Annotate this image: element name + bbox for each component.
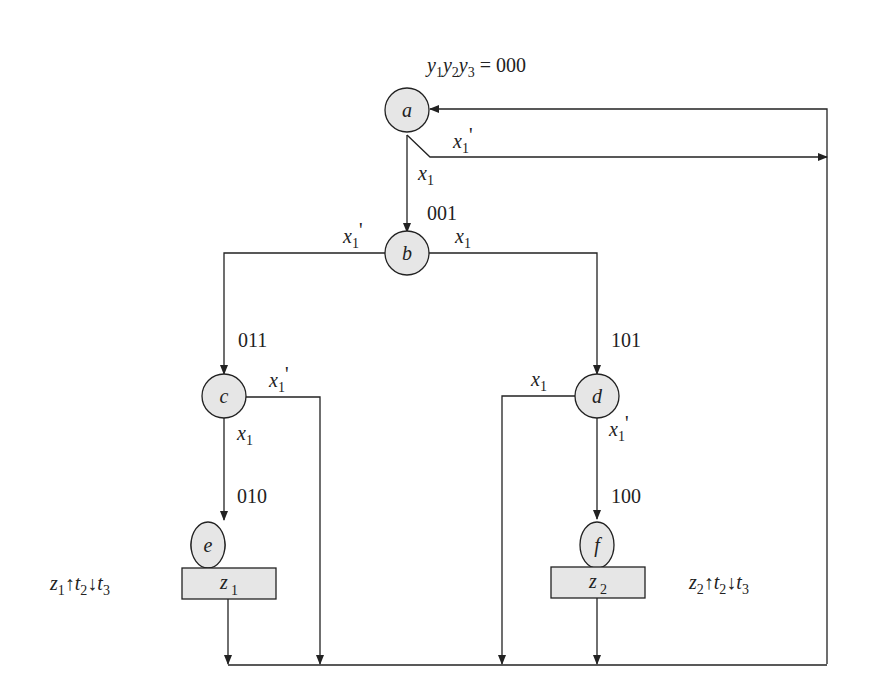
svg-text:x1: x1 xyxy=(454,225,471,251)
state-assignment-header: y1y2y3 = 000 xyxy=(425,54,526,80)
svg-text:x1': x1' xyxy=(452,124,473,156)
svg-text:z: z xyxy=(219,571,228,593)
code-b: 001 xyxy=(427,202,457,224)
code-d: 101 xyxy=(611,329,641,351)
annotation-z1: z1↑t2↓t3 xyxy=(49,572,110,598)
svg-text:d: d xyxy=(592,385,603,407)
svg-text:x1: x1 xyxy=(530,368,547,394)
code-e: 010 xyxy=(237,485,267,507)
svg-text:x1: x1 xyxy=(236,422,253,448)
svg-text:x1: x1 xyxy=(417,162,434,188)
code-c: 011 xyxy=(238,329,267,351)
svg-text:c: c xyxy=(220,385,229,407)
state-diagram: y1y2y3 = 000 a b c xyxy=(0,0,874,699)
svg-text:x1': x1' xyxy=(268,363,289,395)
condition-labels: x1' x1 x1' x1 x1' x1 x1 x1' xyxy=(236,124,629,448)
svg-text:x1': x1' xyxy=(342,219,363,251)
output-box-z2: z 2 xyxy=(551,567,645,598)
state-a: a xyxy=(385,88,429,132)
svg-text:a: a xyxy=(402,99,412,121)
svg-text:z: z xyxy=(588,570,597,592)
svg-text:e: e xyxy=(204,534,213,556)
state-b: b xyxy=(385,231,429,275)
svg-text:b: b xyxy=(402,242,412,264)
state-f: f xyxy=(580,522,614,568)
state-d: d xyxy=(575,374,619,418)
svg-text:2: 2 xyxy=(600,582,607,597)
state-c: c xyxy=(202,374,246,418)
svg-text:1: 1 xyxy=(231,583,238,598)
state-e: e xyxy=(191,522,225,568)
code-f: 100 xyxy=(611,485,641,507)
output-box-z1: z 1 xyxy=(182,568,276,599)
annotation-z2: z2↑t2↓t3 xyxy=(688,571,749,597)
svg-text:x1': x1' xyxy=(608,412,629,444)
